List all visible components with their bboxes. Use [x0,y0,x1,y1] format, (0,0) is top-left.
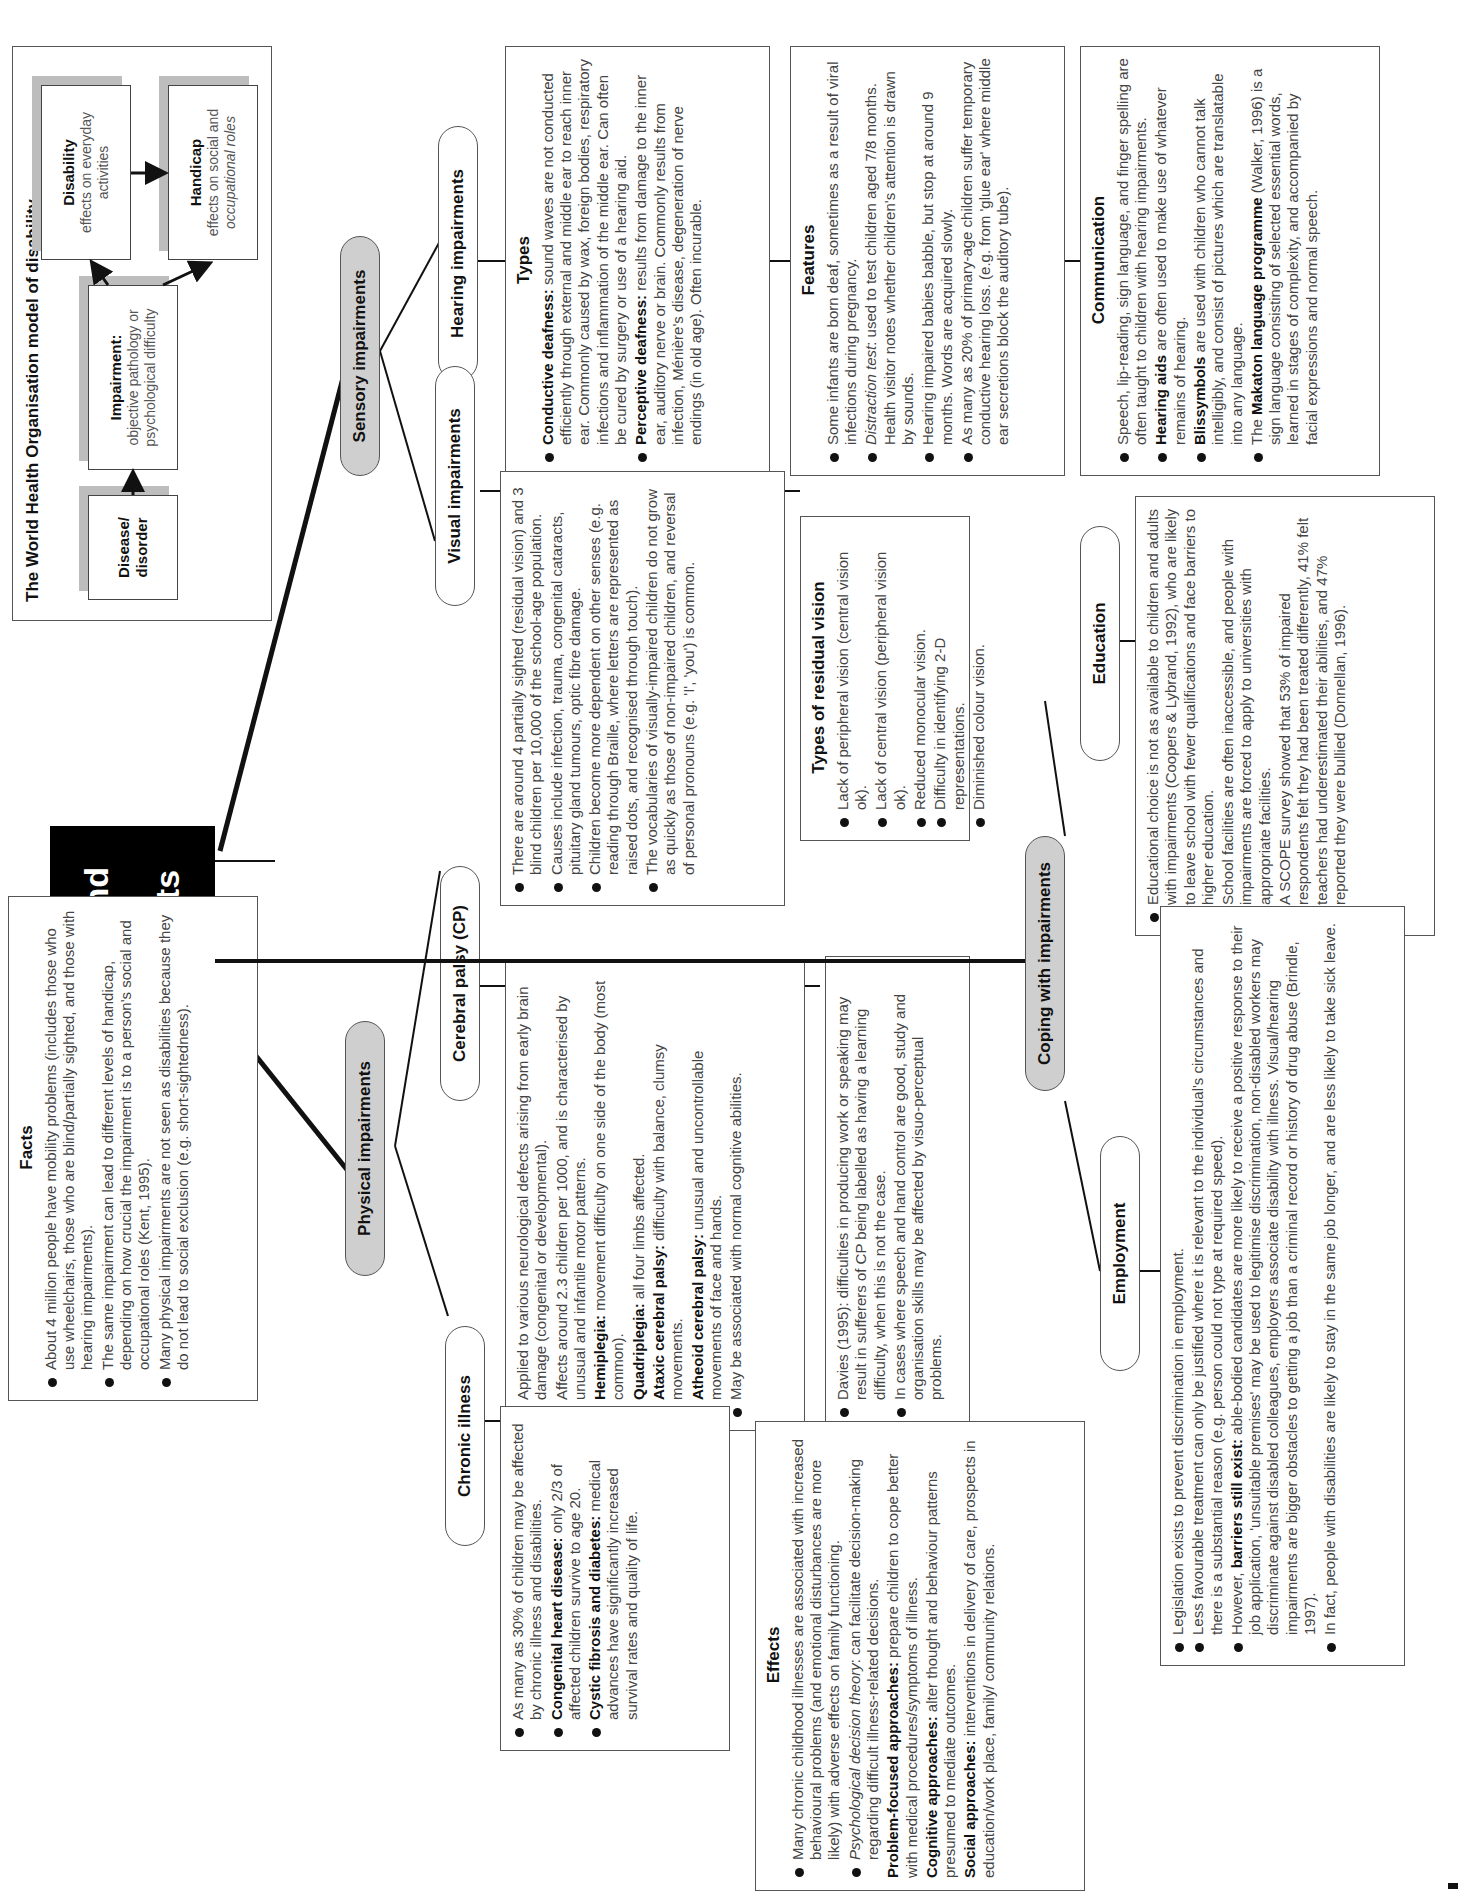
node-education[interactable]: Education [1080,526,1120,761]
employment-item: Less favourable treatment can only be ju… [1189,917,1226,1635]
effects-item: Psychological decision theory: can facil… [846,1432,883,1860]
visual-item: There are around 4 partially sighted (re… [509,482,546,875]
node-label: Education [1090,602,1110,684]
cp-learning-item: In cases where speech and hand control a… [891,967,946,1400]
hearing-features-heading: Features [799,57,820,463]
term: Hemiplegia: [591,1315,608,1400]
effects-subitem: Cognitive approaches: alter thought and … [923,1432,960,1878]
text: Legislation exists to prevent discrimina… [1169,1248,1186,1635]
text: Some infants are born deaf, sometimes as… [824,61,859,445]
chronic-item: Cystic fibrosis and diabetes: medical ad… [586,1417,641,1720]
facts-heading: Facts [17,907,38,1388]
features-item: Some infants are born deaf, sometimes as… [824,57,861,445]
residual-vision-heading: Types of residual vision [809,527,830,828]
node-label: Hearing impairments [448,169,468,338]
chronic-item: As many as 30% of children may be affect… [509,1417,546,1720]
term: Conductive deafness: [539,289,556,445]
term: Atheoid cerebral palsy: [689,1234,706,1400]
text: Many chronic childhood illnesses are ass… [789,1439,843,1860]
node-cerebral-palsy[interactable]: Cerebral palsy (CP) [440,866,480,1101]
communication-item: The Makaton language programme (Walker, … [1248,57,1321,445]
education-item: School facilities are often inaccessible… [1219,507,1274,905]
node-hearing-impairments[interactable]: Hearing impairments [438,126,478,381]
effects-box: Effects Many chronic childhood illnesses… [755,1421,1085,1891]
page-marker [1448,1883,1458,1889]
node-label: Chronic illness [455,1375,475,1497]
text: Applied to various neurological defects … [514,986,549,1400]
term: Perceptive deafness: [632,295,649,445]
education-item: A SCOPE survey showed that 53% of impair… [1276,507,1349,905]
employment-box: Legislation exists to prevent discrimina… [1160,906,1405,1666]
visual-item: The vocabularies of visually-impaired ch… [643,482,698,875]
features-item: Distraction test: used to test children … [862,57,917,445]
pre: The [1248,415,1265,445]
text: Affects around 2.3 children per 1000, an… [553,996,588,1400]
term: Makaton language programme [1248,197,1265,415]
pre: However, [1228,1568,1245,1635]
education-item: Educational choice is not as available t… [1144,507,1217,905]
cp-learning-box: Davies (1995): difficulties in producing… [825,956,970,1431]
residual-item: Lack of peripheral vision (central visio… [834,527,871,810]
node-label: Employment [1110,1202,1130,1304]
hearing-features-box: Features Some infants are born deaf, som… [790,46,1065,476]
hearing-communication-box: Communication Speech, lip-reading, sign … [1080,46,1380,476]
cp-subitem: Quadriplegia: all four limbs affected. [630,972,648,1400]
cp-item: Affects around 2.3 children per 1000, an… [553,972,590,1400]
text: In fact, people with disabilities are li… [1321,923,1338,1635]
features-item: Hearing impaired babies babble, but stop… [919,57,956,445]
residual-item: Reduced monocular vision. [911,527,929,810]
visual-impairments-box: There are around 4 partially sighted (re… [500,471,785,906]
who-model-box: The World Health Organisation model of d… [12,46,272,621]
cp-subitem: Hemiplegia: movement difficulty on one s… [591,972,628,1400]
text: all four limbs affected. [630,1154,647,1304]
term: barriers still exist: [1228,1439,1245,1568]
hearing-type-item: Conductive deafness: sound waves are not… [539,57,630,445]
node-label: Visual impairments [445,408,465,564]
node-employment[interactable]: Employment [1100,1136,1140,1371]
employment-item: In fact, people with disabilities are li… [1321,917,1339,1635]
term: Distraction test [862,346,879,445]
hearing-types-heading: Types [514,57,535,463]
node-physical-impairments[interactable]: Physical impairments [345,1021,385,1276]
facts-item: The same impairment can lead to differen… [99,907,154,1370]
effects-subitem: Social approaches: interventions in deli… [961,1432,998,1878]
node-visual-impairments[interactable]: Visual impairments [435,366,475,606]
cp-learning-item: Davies (1995): difficulties in producing… [834,967,889,1400]
cp-subitem: Ataxic cerebral palsy: difficulty with b… [650,972,687,1400]
communication-item: Blissymbols are used with children who c… [1191,57,1246,445]
features-item: As many as 20% of primary-age children s… [958,57,1013,445]
node-label: Cerebral palsy (CP) [450,905,470,1062]
residual-item: Difficulty in identifying 2-D representa… [931,527,968,810]
node-sensory-impairments[interactable]: Sensory impairments [340,236,380,476]
facts-item: Many physical impairments are not seen a… [156,907,193,1370]
term: Congenital heart disease: [548,1537,565,1720]
employment-item: Legislation exists to prevent discrimina… [1169,917,1187,1635]
communication-item: Speech, lip-reading, sign language, and … [1114,57,1151,445]
facts-item: About 4 million people have mobility pro… [42,907,97,1370]
visual-item: Causes include infection, trauma, congen… [548,482,585,875]
term: Ataxic cerebral palsy: [650,1245,667,1400]
visual-item: Children become more dependent on other … [586,482,641,875]
term: Blissymbols [1191,357,1208,445]
effects-subitem: Problem-focused approaches: prepare chil… [884,1432,921,1878]
facts-box: Facts About 4 million people have mobili… [8,896,258,1401]
employment-item: However, barriers still exist: able-bodi… [1228,917,1319,1635]
hearing-types-box: Types Conductive deafness: sound waves a… [505,46,770,476]
text: Less favourable treatment can only be ju… [1189,948,1224,1635]
who-arrows [13,45,273,620]
cerebral-palsy-box: Applied to various neurological defects … [505,961,805,1431]
education-info-box: Educational choice is not as available t… [1135,496,1435,936]
chronic-illness-info-box: As many as 30% of children may be affect… [500,1406,730,1751]
node-chronic-illness[interactable]: Chronic illness [445,1326,485,1546]
node-label: Coping with impairments [1035,862,1055,1065]
node-coping-with-impairments[interactable]: Coping with impairments [1025,836,1065,1091]
hearing-type-item: Perceptive deafness: results from damage… [632,57,705,445]
residual-item: Lack of central vision (peripheral visio… [872,527,909,810]
term: Hearing aids [1152,355,1169,445]
cp-item: May be associated with normal cognitive … [727,972,745,1400]
chronic-item: Congenital heart disease: only 2/3 of af… [548,1417,585,1720]
effects-item: Many chronic childhood illnesses are ass… [789,1432,844,1860]
node-label: Physical impairments [355,1061,375,1236]
communication-heading: Communication [1089,57,1110,463]
residual-item: Diminished colour vision. [970,527,988,810]
